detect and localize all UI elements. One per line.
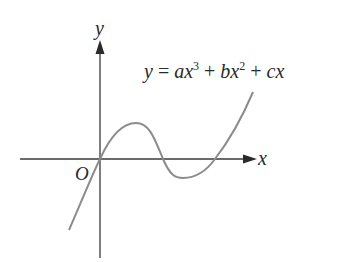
cubic-curve <box>69 92 253 230</box>
x-axis-arrowhead <box>243 155 257 164</box>
origin-label: O <box>75 163 89 184</box>
x-axis-label: x <box>257 147 267 169</box>
y-axis-label: y <box>93 17 104 40</box>
y-axis-arrowhead <box>96 40 105 54</box>
equation-label: y = ax3 + bx2 + cx <box>142 59 284 83</box>
cubic-graph-diagram: y x O y = ax3 + bx2 + cx <box>0 0 339 262</box>
